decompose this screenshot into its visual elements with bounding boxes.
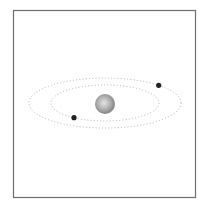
planet-inner	[71, 115, 76, 120]
orbit-diagram	[0, 0, 204, 208]
planet-outer	[156, 83, 161, 88]
central-star	[95, 94, 115, 114]
